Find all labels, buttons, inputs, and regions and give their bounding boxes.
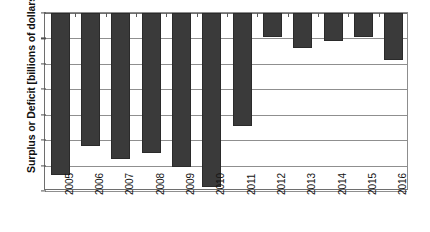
bar <box>142 13 161 153</box>
y-tick-mark <box>41 114 46 115</box>
x-tick-label: 2008 <box>155 173 166 195</box>
x-tick-mark <box>257 13 258 17</box>
x-tick-label: 2007 <box>124 173 135 195</box>
gridline <box>45 166 407 167</box>
x-tick-label: 2014 <box>337 173 348 195</box>
x-tick-mark <box>166 13 167 17</box>
x-tick-label: 2012 <box>276 173 287 195</box>
bar <box>202 13 221 187</box>
bar <box>293 13 312 48</box>
bar <box>81 13 100 146</box>
x-tick-mark <box>288 13 289 17</box>
x-tick-label: 2016 <box>397 173 408 195</box>
x-tick-mark <box>318 13 319 17</box>
x-tick-label: 2015 <box>367 173 378 195</box>
x-tick-mark <box>379 13 380 17</box>
x-tick-label: 2010 <box>215 173 226 195</box>
y-tick-mark <box>41 12 46 13</box>
bar <box>172 13 191 167</box>
bar <box>233 13 252 126</box>
bar <box>51 13 70 175</box>
bar <box>384 13 403 60</box>
x-tick-mark <box>227 13 228 17</box>
x-tick-mark <box>197 13 198 17</box>
y-tick-mark <box>41 190 46 191</box>
y-axis-title: Surplus or Deficit [billions of dollars] <box>25 0 37 173</box>
bar-chart: Surplus or Deficit [billions of dollars]… <box>0 0 430 232</box>
x-tick-mark <box>348 13 349 17</box>
y-tick-mark <box>41 38 46 39</box>
bar <box>263 13 282 37</box>
x-tick-label: 2005 <box>64 173 75 195</box>
plot-area <box>44 12 408 190</box>
y-tick-mark <box>41 140 46 141</box>
bar <box>354 13 373 37</box>
x-tick-label: 2013 <box>306 173 317 195</box>
x-tick-label: 2011 <box>246 174 257 195</box>
y-tick-mark <box>41 63 46 64</box>
y-tick-mark <box>41 89 46 90</box>
x-tick-mark <box>136 13 137 17</box>
bar <box>111 13 130 159</box>
x-tick-mark <box>75 13 76 17</box>
x-tick-mark <box>106 13 107 17</box>
x-tick-label: 2009 <box>185 173 196 195</box>
y-tick-mark <box>41 165 46 166</box>
bar <box>324 13 343 41</box>
x-tick-label: 2006 <box>94 173 105 195</box>
